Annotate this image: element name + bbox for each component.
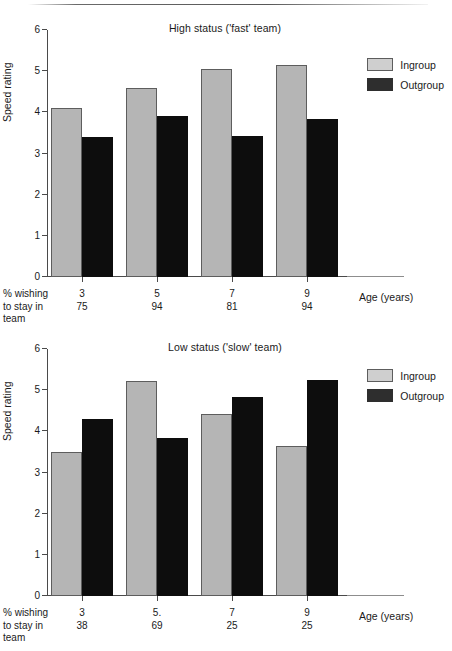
x-axis-label: Age (years) (359, 610, 413, 622)
y-axis-tick-label: 0 (23, 272, 40, 282)
legend-item-ingroup: Ingroup (367, 369, 444, 382)
percent-stay-value: 69 (140, 620, 174, 631)
x-axis-tick (232, 596, 233, 601)
y-axis-tick (42, 276, 47, 277)
legend-swatch-ingroup-icon (367, 58, 393, 71)
y-axis-tick-label: 1 (23, 231, 40, 241)
x-axis-tick (232, 277, 233, 282)
y-axis-tick-label: 4 (23, 426, 40, 436)
y-axis-tick (42, 70, 47, 71)
bar-outgroup (157, 116, 188, 277)
legend-label-outgroup: Outgroup (400, 390, 444, 402)
bar-ingroup (201, 69, 232, 277)
y-axis-tick-label: 3 (23, 468, 40, 478)
bar-outgroup (82, 137, 113, 277)
bar-outgroup (232, 136, 263, 277)
y-axis-tick-label: 0 (23, 591, 40, 601)
x-axis-tick-label: 5 (142, 288, 172, 299)
bar-outgroup (232, 397, 263, 596)
y-axis-tick-label: 2 (23, 509, 40, 519)
bar-ingroup (201, 414, 232, 596)
percent-caption-line-2: to stay in (3, 620, 48, 633)
legend-swatch-outgroup-icon (367, 389, 393, 402)
chart-panel-high-status: High status ('fast' team) Speed rating A… (0, 14, 452, 324)
bar-ingroup (126, 88, 157, 277)
percent-stay-value: 25 (290, 620, 324, 631)
x-axis-tick (82, 596, 83, 601)
x-axis-tick-label: 3 (67, 288, 97, 299)
bar-outgroup (307, 119, 338, 277)
y-axis-tick (42, 389, 47, 390)
x-axis-tick (82, 277, 83, 282)
y-axis-tick-label: 6 (23, 25, 40, 35)
y-axis-tick (42, 554, 47, 555)
x-axis-extension (347, 276, 404, 277)
scan-artifact-line (28, 4, 428, 5)
x-axis-tick-label: 9 (292, 288, 322, 299)
percent-stay-value: 94 (290, 301, 324, 312)
percent-stay-value: 25 (215, 620, 249, 631)
x-axis-tick (157, 596, 158, 601)
legend-swatch-ingroup-icon (367, 369, 393, 382)
y-axis-tick-label: 3 (23, 149, 40, 159)
plot-area-low-status: Speed rating Age (years) 0123456 35.79 (47, 349, 347, 596)
y-axis-tick (42, 29, 47, 30)
legend-item-outgroup: Outgroup (367, 78, 444, 91)
legend-low-status: Ingroup Outgroup (367, 369, 444, 409)
y-axis-label: Speed rating (1, 381, 13, 441)
y-axis-tick (42, 513, 47, 514)
y-axis-tick-label: 4 (23, 107, 40, 117)
bar-ingroup (276, 446, 307, 596)
y-axis-line (47, 349, 48, 596)
legend-label-ingroup: Ingroup (400, 370, 436, 382)
x-axis-tick (307, 277, 308, 282)
x-axis-tick-label: 3 (67, 607, 97, 618)
legend-item-ingroup: Ingroup (367, 58, 444, 71)
percent-caption-line-2: to stay in (3, 301, 48, 314)
y-axis-tick (42, 595, 47, 596)
legend-swatch-outgroup-icon (367, 78, 393, 91)
x-axis-tick (157, 277, 158, 282)
y-axis-tick-label: 6 (23, 344, 40, 354)
y-axis-tick (42, 153, 47, 154)
y-axis-tick-label: 5 (23, 66, 40, 76)
percent-caption-low-status: % wishing to stay in team (3, 607, 48, 645)
legend-item-outgroup: Outgroup (367, 389, 444, 402)
percent-stay-value: 94 (140, 301, 174, 312)
x-axis-label: Age (years) (359, 291, 413, 303)
legend-label-ingroup: Ingroup (400, 59, 436, 71)
y-axis-tick (42, 472, 47, 473)
x-axis-tick-label: 7 (217, 288, 247, 299)
bar-outgroup (157, 438, 188, 596)
x-axis-tick-label: 5. (142, 607, 172, 618)
bar-ingroup (126, 381, 157, 596)
y-axis-tick-label: 5 (23, 385, 40, 395)
x-axis-extension (347, 595, 404, 596)
bar-ingroup (276, 65, 307, 277)
percent-caption-line-1: % wishing (3, 288, 48, 301)
percent-caption-line-1: % wishing (3, 607, 48, 620)
bar-outgroup (82, 419, 113, 596)
y-axis-tick (42, 430, 47, 431)
bar-ingroup (51, 452, 82, 596)
y-axis-tick-label: 2 (23, 190, 40, 200)
percent-caption-line-3: team (3, 632, 48, 645)
percent-caption-high-status: % wishing to stay in team (3, 288, 48, 326)
bar-ingroup (51, 108, 82, 277)
x-axis-tick-label: 7 (217, 607, 247, 618)
legend-label-outgroup: Outgroup (400, 79, 444, 91)
percent-stay-value: 75 (65, 301, 99, 312)
chart-panel-low-status: Low status ('slow' team) Speed rating Ag… (0, 333, 452, 651)
y-axis-tick (42, 235, 47, 236)
y-axis-tick-label: 1 (23, 550, 40, 560)
plot-area-high-status: Speed rating Age (years) 0123456 3579 (47, 30, 347, 277)
percent-stay-value: 81 (215, 301, 249, 312)
y-axis-line (47, 30, 48, 277)
y-axis-tick (42, 348, 47, 349)
x-axis-tick-label: 9 (292, 607, 322, 618)
legend-high-status: Ingroup Outgroup (367, 58, 444, 98)
x-axis-tick (307, 596, 308, 601)
y-axis-label: Speed rating (1, 62, 13, 122)
percent-caption-line-3: team (3, 313, 48, 326)
percent-stay-value: 38 (65, 620, 99, 631)
